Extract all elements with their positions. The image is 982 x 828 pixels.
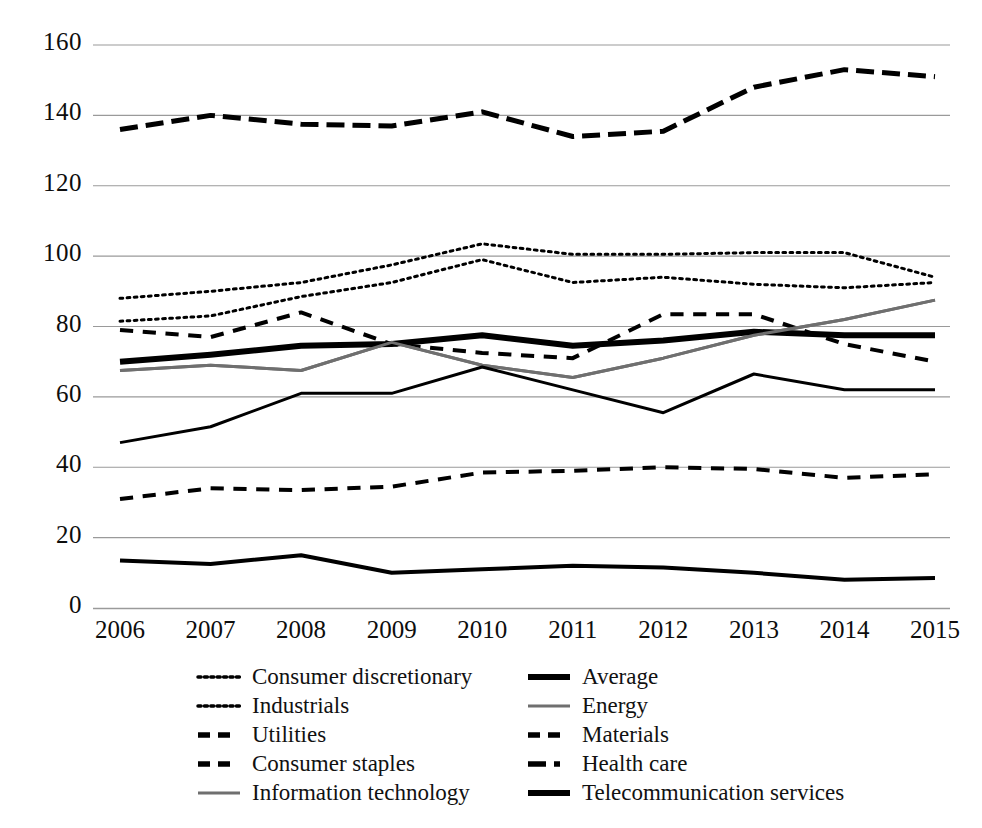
y-tick-label-100: 100 (43, 239, 82, 267)
legend-item-information-technology[interactable]: Information technology (196, 778, 526, 807)
x-tick-label-2012: 2012 (618, 616, 708, 644)
legend-swatch-dashed (196, 726, 242, 744)
x-tick-label-2006: 2006 (75, 616, 165, 644)
legend-item-energy[interactable]: Energy (526, 691, 956, 720)
legend-label: Utilities (252, 723, 326, 746)
legend-label: Telecommunication services (582, 781, 844, 804)
legend-swatch-dotted (196, 697, 242, 715)
legend-label: Average (582, 665, 658, 688)
legend-item-materials[interactable]: Materials (526, 720, 956, 749)
series-line-telecommunication-services (120, 555, 935, 580)
y-tick-label-0: 0 (69, 591, 82, 619)
legend-item-industrials[interactable]: Industrials (196, 691, 526, 720)
x-tick-label-2011: 2011 (528, 616, 618, 644)
legend-label: Materials (582, 723, 669, 746)
legend-swatch-solid (526, 668, 572, 686)
y-tick-label-120: 120 (43, 169, 82, 197)
y-tick-label-140: 140 (43, 98, 82, 126)
series-line-health-care (120, 70, 935, 137)
y-tick-label-80: 80 (56, 310, 82, 338)
x-tick-label-2008: 2008 (256, 616, 346, 644)
legend-swatch-dashed (196, 755, 242, 773)
series-lines (120, 70, 935, 580)
x-tick-label-2013: 2013 (709, 616, 799, 644)
x-tick-label-2014: 2014 (799, 616, 889, 644)
legend-item-consumer-discretionary[interactable]: Consumer discretionary (196, 662, 526, 691)
legend-item-average[interactable]: Average (526, 662, 956, 691)
x-tick-label-2010: 2010 (437, 616, 527, 644)
legend-label: Consumer staples (252, 752, 415, 775)
legend-swatch-dash-dot (526, 755, 572, 773)
x-tick-label-2009: 2009 (347, 616, 437, 644)
line-chart: 160140120100806040200 200620072008200920… (0, 0, 982, 828)
x-tick-label-2007: 2007 (166, 616, 256, 644)
legend-label: Industrials (252, 694, 349, 717)
legend-swatch-dashed (526, 726, 572, 744)
series-line-industrials (120, 260, 935, 322)
legend-label: Information technology (252, 781, 470, 804)
y-tick-label-40: 40 (56, 450, 82, 478)
legend-swatch-solid (196, 784, 242, 802)
legend-label: Energy (582, 694, 648, 717)
legend-label: Consumer discretionary (252, 665, 472, 688)
chart-legend: Consumer discretionaryAverageIndustrials… (196, 662, 956, 807)
legend-swatch-solid (526, 697, 572, 715)
legend-item-utilities[interactable]: Utilities (196, 720, 526, 749)
y-tick-label-160: 160 (43, 28, 82, 56)
gridlines (93, 45, 950, 609)
legend-label: Health care (582, 752, 687, 775)
y-tick-label-60: 60 (56, 380, 82, 408)
series-line-utilities (120, 467, 935, 499)
legend-item-consumer-staples[interactable]: Consumer staples (196, 749, 526, 778)
legend-item-telecommunication-services[interactable]: Telecommunication services (526, 778, 956, 807)
legend-swatch-dotted (196, 668, 242, 686)
legend-item-health-care[interactable]: Health care (526, 749, 956, 778)
x-tick-label-2015: 2015 (890, 616, 980, 644)
y-tick-label-20: 20 (56, 521, 82, 549)
series-line-materials (120, 367, 935, 443)
legend-swatch-solid (526, 784, 572, 802)
